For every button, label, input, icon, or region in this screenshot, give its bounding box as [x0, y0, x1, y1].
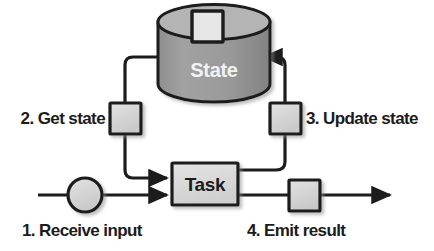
step-label-get-state: 2. Get state	[21, 109, 106, 128]
step-label-update-state: 3. Update state	[306, 109, 418, 128]
step-label-receive-input: 1. Receive input	[22, 221, 143, 240]
emit-result-node[interactable]	[289, 180, 320, 211]
step-label-emit-result: 4. Emit result	[247, 221, 346, 240]
stateful-task-flow-diagram: State Task 1. Receive input 2. Get state…	[0, 0, 434, 251]
diagram-canvas: State Task 1. Receive input 2. Get state…	[0, 0, 434, 251]
receive-input-node[interactable]	[68, 178, 102, 212]
state-record-badge-icon	[192, 11, 223, 42]
state-store-label: State	[190, 59, 238, 81]
update-state-node[interactable]	[270, 103, 301, 134]
get-state-node[interactable]	[110, 103, 141, 134]
task-label: Task	[185, 174, 226, 195]
